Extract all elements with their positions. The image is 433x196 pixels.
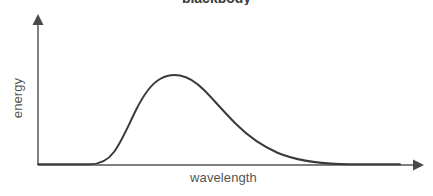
x-axis-label: wavelength [0,171,433,184]
y-axis-arrowhead [33,14,44,25]
chart-figure: blackbody wavelength energy [0,0,433,196]
plot-area [0,0,433,196]
y-axis-label: energy [11,0,31,196]
energy-curve [38,75,400,164]
x-axis-arrowhead [413,160,424,171]
axes-group [33,14,425,171]
